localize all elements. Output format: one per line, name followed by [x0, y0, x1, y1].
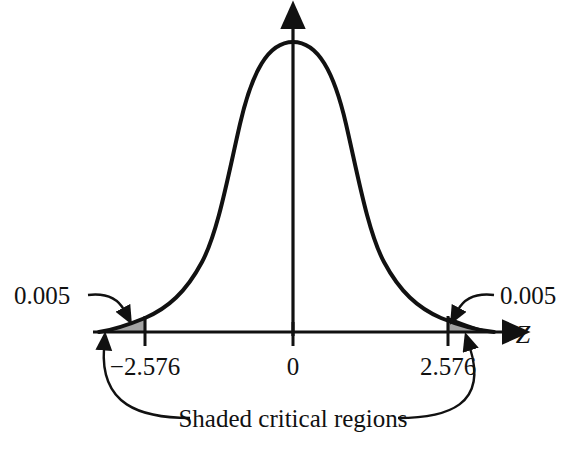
- left-tail-area-label: 0.005: [14, 282, 70, 309]
- normal-curve: [99, 42, 494, 332]
- leader-line-right-area: [458, 295, 494, 310]
- tick-label-negative: −2.576: [110, 353, 180, 380]
- x-axis-label: Z: [516, 320, 531, 349]
- leader-line-left-area: [88, 295, 124, 310]
- tick-label-positive: 2.576: [420, 353, 476, 380]
- caption-label: Shaded critical regions: [178, 405, 407, 432]
- right-tail-area-label: 0.005: [500, 282, 556, 309]
- distribution-diagram: −2.576 0 2.576 Z 0.005 0.005 Shaded crit…: [0, 0, 586, 456]
- tick-label-zero: 0: [287, 353, 300, 380]
- normal-distribution-figure: −2.576 0 2.576 Z 0.005 0.005 Shaded crit…: [0, 0, 586, 456]
